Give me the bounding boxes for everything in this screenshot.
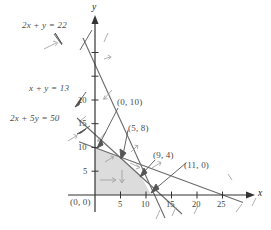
vertex-label-11-0: (11, 0) xyxy=(184,160,209,170)
region-hint-arrows xyxy=(44,33,256,219)
line-label-2x-y-22: 2x + y = 22 xyxy=(22,20,67,30)
y-tick-label-15: 15 xyxy=(78,118,87,128)
x-axis-label: x xyxy=(258,188,262,198)
line-label-2x-5y-50: 2x + 5y = 50 xyxy=(10,113,60,123)
vertex-label-9-4: (9, 4) xyxy=(153,150,174,160)
x-tick-label-10: 10 xyxy=(141,199,150,209)
x-axis-arrowhead xyxy=(246,192,255,199)
y-axis-label: y xyxy=(92,2,96,12)
vertex-label-0-10: (0, 10) xyxy=(117,97,142,107)
x-tick-label-15: 15 xyxy=(166,199,175,209)
y-tick-label-5: 5 xyxy=(83,166,87,176)
vertex-label-5-8: (5, 8) xyxy=(128,123,149,133)
linear-programming-graph: 2x + y = 22 x + y = 13 2x + 5y = 50 (0, … xyxy=(0,0,271,230)
x-tick-label-5: 5 xyxy=(118,199,122,209)
x-tick-label-20: 20 xyxy=(192,199,201,209)
y-tick-label-10: 10 xyxy=(78,142,87,152)
vertex-label-0-0: (0, 0) xyxy=(70,197,91,207)
y-axis-arrowhead xyxy=(92,15,99,24)
line-label-x-y-13: x + y = 13 xyxy=(29,83,69,93)
x-tick-label-25: 25 xyxy=(217,199,226,209)
y-tick-label-20: 20 xyxy=(78,95,87,105)
